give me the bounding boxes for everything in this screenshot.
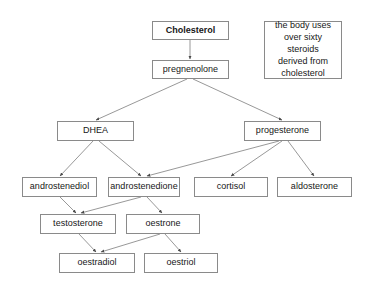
node-pregnenolone: pregnenolone [152, 60, 229, 79]
node-cholesterol: Cholesterol [152, 21, 229, 40]
edge-progesterone-to-aldosterone [288, 141, 314, 176]
edge-dhea-to-androstenedione [99, 141, 141, 176]
edge-pregnenolone-to-dhea [96, 79, 187, 120]
node-oestradiol: oestradiol [59, 253, 135, 273]
node-progesterone: progesterone [244, 121, 321, 141]
node-oestriol: oestriol [144, 253, 218, 273]
edge-dhea-to-androstenediol [60, 141, 93, 176]
edge-androstenedione-to-testosterone [81, 197, 141, 213]
edge-oestrone-to-oestriol [165, 234, 181, 252]
node-androstenedione: androstenedione [108, 177, 180, 197]
steroid-pathway-diagram: CholesterolpregnenoloneDHEAprogesteronea… [0, 0, 375, 296]
edge-androstenediol-to-testosterone [60, 197, 76, 213]
node-cortisol: cortisol [194, 177, 268, 197]
edge-testosterone-to-oestradiol [79, 234, 96, 252]
node-aldosterone: aldosterone [277, 177, 352, 197]
edge-progesterone-to-androstenedione [147, 141, 279, 176]
edge-oestrone-to-oestradiol [101, 234, 160, 252]
node-testosterone: testosterone [40, 214, 116, 234]
node-androstenediol: androstenediol [22, 177, 97, 197]
edge-pregnenolone-to-progesterone [193, 79, 282, 120]
note-cholesterol-usage: the body uses over sixty steroids derive… [264, 21, 342, 79]
node-dhea: DHEA [57, 121, 134, 141]
node-oestrone: oestrone [126, 214, 200, 234]
edge-progesterone-to-cortisol [231, 141, 282, 176]
edge-androstenedione-to-oestrone [147, 197, 162, 213]
